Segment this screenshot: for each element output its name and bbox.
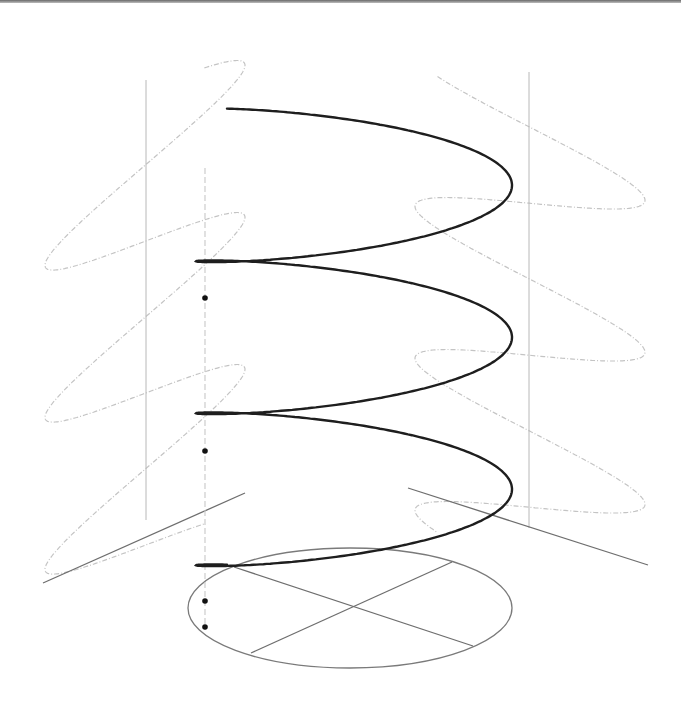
point-p2 — [202, 448, 208, 454]
left-projection-curve — [45, 61, 245, 575]
point-p1 — [202, 295, 208, 301]
right-projection-curve — [415, 77, 645, 533]
point-p3 — [202, 598, 208, 604]
left-projection-path — [45, 61, 245, 575]
diagram-canvas: Circular helix with orthogonal projectio… — [0, 0, 681, 708]
right-ground-axis-line — [408, 488, 648, 565]
left-ground-axis-line — [43, 493, 245, 583]
helix-path — [196, 109, 512, 566]
helix-curve — [196, 109, 512, 566]
helix-figure — [0, 0, 681, 708]
base-axis-2-line — [251, 562, 452, 653]
point-p0 — [202, 624, 208, 630]
right-projection-path — [415, 77, 645, 533]
